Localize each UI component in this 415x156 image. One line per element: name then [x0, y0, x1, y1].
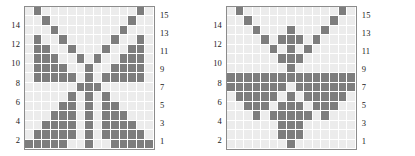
- heatmap-cell: [85, 16, 94, 26]
- heatmap-cell: [51, 130, 60, 140]
- heatmap-cell: [145, 111, 154, 121]
- axis-tick-label: 8: [218, 73, 222, 92]
- heatmap-cell: [330, 16, 339, 26]
- heatmap-cell: [321, 7, 330, 17]
- heatmap-cell: [111, 130, 120, 140]
- axis-tick-label: 13: [160, 24, 169, 42]
- heatmap-cell: [330, 92, 339, 102]
- heatmap-cell: [59, 26, 68, 36]
- heatmap-cell: [94, 102, 103, 112]
- heatmap-cell: [25, 121, 34, 131]
- heatmap-cell: [34, 92, 43, 102]
- heatmap-cell: [77, 45, 86, 55]
- heatmap-cell: [111, 35, 120, 45]
- heatmap-cell: [313, 140, 322, 150]
- heatmap-cell: [102, 83, 111, 93]
- heatmap-cell: [313, 102, 322, 112]
- heatmap-cell: [111, 45, 120, 55]
- heatmap-cell: [34, 102, 43, 112]
- heatmap-cell: [145, 26, 154, 36]
- heatmap-cell: [120, 45, 129, 55]
- heatmap-cell: [304, 73, 313, 83]
- heatmap-cell: [321, 92, 330, 102]
- axis-tick-label: 12: [213, 35, 222, 54]
- heatmap-cell: [85, 35, 94, 45]
- heatmap-cell: [296, 64, 305, 74]
- heatmap-cell: [120, 83, 129, 93]
- axis-tick-label: 3: [362, 114, 366, 132]
- heatmap-cell: [244, 54, 253, 64]
- heatmap-cell: [244, 26, 253, 36]
- axis-tick-label: 6: [16, 92, 20, 111]
- heatmap-cell: [34, 45, 43, 55]
- heatmap-cell: [347, 102, 356, 112]
- heatmap-cell: [137, 45, 146, 55]
- heatmap-cell: [339, 35, 348, 45]
- heatmap-cell: [296, 35, 305, 45]
- heatmap-cell: [25, 54, 34, 64]
- heatmap-cell: [42, 7, 51, 17]
- heatmap-cell: [77, 130, 86, 140]
- heatmap-cell: [347, 26, 356, 36]
- heatmap-cell: [42, 45, 51, 55]
- heatmap-cell: [85, 64, 94, 74]
- axis-tick-label: 9: [160, 60, 164, 78]
- heatmap-cell: [347, 64, 356, 74]
- heatmap-cell: [51, 121, 60, 131]
- axis-tick-label: 14: [11, 16, 20, 35]
- heatmap-cell: [261, 45, 270, 55]
- heatmap-cell: [34, 64, 43, 74]
- heatmap-cell: [330, 121, 339, 131]
- heatmap-cell: [120, 26, 129, 36]
- heatmap-cell: [145, 121, 154, 131]
- heatmap-cell: [94, 73, 103, 83]
- heatmap-cell: [85, 130, 94, 140]
- axis-tick-label: 2: [16, 131, 20, 150]
- heatmap-cell: [339, 16, 348, 26]
- left-panel-heatmap-grid: [25, 7, 154, 150]
- heatmap-cell: [94, 111, 103, 121]
- heatmap-cell: [278, 121, 287, 131]
- heatmap-cell: [145, 130, 154, 140]
- heatmap-cell: [68, 102, 77, 112]
- heatmap-cell: [51, 102, 60, 112]
- heatmap-cell: [321, 121, 330, 131]
- heatmap-cell: [236, 92, 245, 102]
- heatmap-cell: [270, 16, 279, 26]
- heatmap-cell: [59, 16, 68, 26]
- heatmap-cell: [287, 92, 296, 102]
- heatmap-cell: [120, 64, 129, 74]
- heatmap-cell: [68, 92, 77, 102]
- heatmap-cell: [68, 83, 77, 93]
- heatmap-cell: [304, 130, 313, 140]
- heatmap-cell: [94, 83, 103, 93]
- heatmap-cell: [236, 111, 245, 121]
- heatmap-cell: [102, 130, 111, 140]
- heatmap-cell: [330, 73, 339, 83]
- heatmap-cell: [296, 45, 305, 55]
- heatmap-cell: [261, 83, 270, 93]
- heatmap-cell: [94, 121, 103, 131]
- heatmap-cell: [347, 130, 356, 140]
- heatmap-cell: [145, 7, 154, 17]
- heatmap-cell: [145, 54, 154, 64]
- heatmap-cell: [244, 140, 253, 150]
- heatmap-cell: [68, 26, 77, 36]
- heatmap-cell: [330, 54, 339, 64]
- heatmap-cell: [94, 140, 103, 150]
- heatmap-cell: [278, 83, 287, 93]
- heatmap-cell: [236, 102, 245, 112]
- heatmap-cell: [270, 102, 279, 112]
- heatmap-cell: [42, 16, 51, 26]
- heatmap-cell: [296, 83, 305, 93]
- heatmap-cell: [278, 45, 287, 55]
- heatmap-cell: [244, 16, 253, 26]
- heatmap-cell: [287, 73, 296, 83]
- heatmap-cell: [120, 73, 129, 83]
- heatmap-cell: [102, 54, 111, 64]
- heatmap-cell: [270, 140, 279, 150]
- heatmap-cell: [111, 111, 120, 121]
- heatmap-cell: [59, 111, 68, 121]
- heatmap-cell: [304, 16, 313, 26]
- heatmap-cell: [128, 73, 137, 83]
